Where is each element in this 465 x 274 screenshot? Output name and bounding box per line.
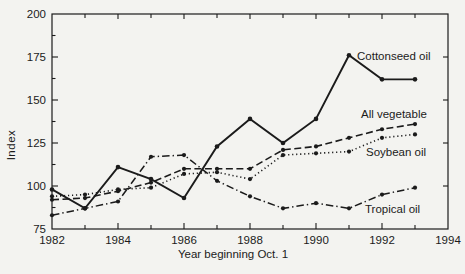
series-label-tropical-oil: Tropical oil <box>365 203 420 215</box>
data-point-cottonseed-oil <box>380 77 385 82</box>
data-point-tropical-oil <box>116 199 120 203</box>
data-point-tropical-oil <box>248 194 252 198</box>
data-point-tropical-oil <box>50 213 54 217</box>
x-axis-title: Year beginning Oct. 1 <box>178 248 288 260</box>
data-point-soybean-oil <box>248 177 252 181</box>
data-point-cottonseed-oil <box>182 196 187 201</box>
data-point-all-vegetable <box>248 167 252 171</box>
data-point-all-vegetable <box>182 167 186 171</box>
data-point-soybean-oil <box>413 132 417 136</box>
series-line-cottonseed-oil <box>52 55 415 208</box>
data-point-tropical-oil <box>182 153 186 157</box>
x-tick-label: 1984 <box>102 234 134 246</box>
series-line-tropical-oil <box>52 155 415 215</box>
chart-canvas <box>0 0 465 274</box>
data-point-tropical-oil <box>149 155 153 159</box>
data-point-all-vegetable <box>281 148 285 152</box>
x-tick-label: 1982 <box>36 234 68 246</box>
data-point-all-vegetable <box>314 144 318 148</box>
data-point-all-vegetable <box>116 189 120 193</box>
data-point-soybean-oil <box>281 153 285 157</box>
data-point-tropical-oil <box>281 206 285 210</box>
x-tick-label: 1986 <box>168 234 200 246</box>
y-tick-label: 175 <box>16 51 46 63</box>
data-point-tropical-oil <box>413 186 417 190</box>
data-point-all-vegetable <box>50 198 54 202</box>
data-point-cottonseed-oil <box>149 177 154 182</box>
data-point-all-vegetable <box>347 136 351 140</box>
data-point-cottonseed-oil <box>215 144 220 149</box>
series-line-soybean-oil <box>52 134 415 196</box>
y-tick-label: 100 <box>16 180 46 192</box>
data-point-all-vegetable <box>413 122 417 126</box>
data-point-cottonseed-oil <box>281 141 286 146</box>
data-point-cottonseed-oil <box>314 117 319 122</box>
data-point-soybean-oil <box>182 172 186 176</box>
series-label-soybean-oil: Soybean oil <box>366 146 426 158</box>
data-point-tropical-oil <box>380 193 384 197</box>
y-tick-label: 200 <box>16 8 46 20</box>
data-point-all-vegetable <box>215 167 219 171</box>
data-point-tropical-oil <box>215 179 219 183</box>
line-chart-figure: Index Year beginning Oct. 1 Tropical oil… <box>0 0 465 274</box>
x-tick-label: 1994 <box>432 234 464 246</box>
data-point-soybean-oil <box>149 186 153 190</box>
series-label-cottonseed-oil: Cottonseed oil <box>357 50 431 62</box>
data-point-cottonseed-oil <box>116 165 121 170</box>
data-point-all-vegetable <box>83 196 87 200</box>
data-point-tropical-oil <box>314 201 318 205</box>
data-point-tropical-oil <box>347 206 351 210</box>
series-label-all-vegetable: All vegetable <box>361 108 427 120</box>
data-point-cottonseed-oil <box>347 53 352 58</box>
data-point-cottonseed-oil <box>413 77 418 82</box>
data-point-all-vegetable <box>380 127 384 131</box>
y-tick-label: 150 <box>16 94 46 106</box>
data-point-soybean-oil <box>314 151 318 155</box>
data-point-cottonseed-oil <box>248 117 253 122</box>
data-point-soybean-oil <box>380 136 384 140</box>
x-tick-label: 1990 <box>300 234 332 246</box>
data-point-cottonseed-oil <box>83 206 88 211</box>
data-point-cottonseed-oil <box>50 187 55 192</box>
y-tick-label: 125 <box>16 137 46 149</box>
data-point-soybean-oil <box>347 150 351 154</box>
x-tick-label: 1992 <box>366 234 398 246</box>
x-tick-label: 1988 <box>234 234 266 246</box>
